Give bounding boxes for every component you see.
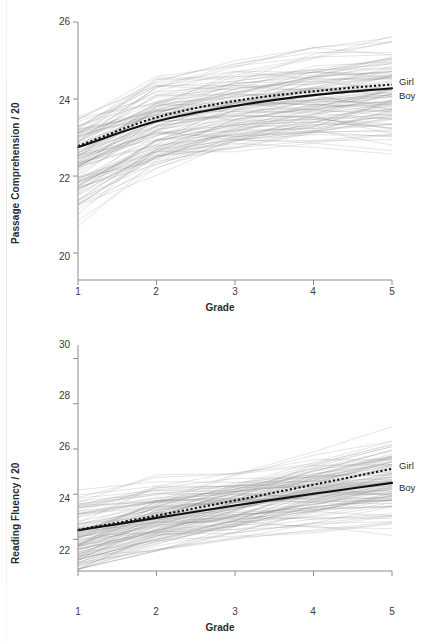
chart-panel-reading-fluency: Reading Fluency / 20 30 28 26 24 22 1 2 … [0, 320, 440, 641]
plot-canvas-top [0, 0, 440, 320]
plot-canvas-bottom [0, 320, 440, 641]
chart-panel-passage-comprehension: Passage Comprehension / 20 26 24 22 20 1… [0, 0, 440, 320]
individual-trajectories-bottom [78, 427, 392, 570]
